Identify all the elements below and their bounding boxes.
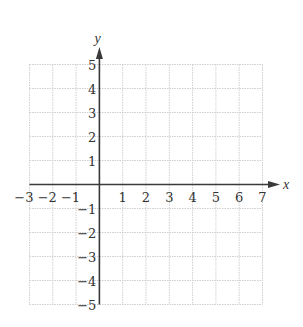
- y-tick-label: −5: [77, 298, 96, 313]
- x-tick-label: 6: [235, 190, 243, 205]
- y-tick-label: 3: [88, 106, 96, 121]
- y-tick-label: 2: [88, 130, 96, 145]
- x-tick-label: 2: [142, 190, 150, 205]
- y-axis-arrow-icon: [96, 47, 103, 59]
- y-tick-label: −3: [77, 250, 96, 265]
- x-axis-arrow-icon: [268, 181, 280, 188]
- x-tick-label: 1: [119, 190, 127, 205]
- y-tick-label: −1: [77, 202, 96, 217]
- y-axis-label: y: [92, 31, 101, 46]
- y-tick-label: −4: [77, 274, 96, 289]
- y-tick-label: −2: [77, 226, 96, 241]
- axes: [30, 47, 281, 305]
- x-tick-label: 5: [212, 190, 220, 205]
- y-tick-label: 4: [88, 82, 96, 97]
- x-axis-label: x: [282, 177, 290, 192]
- coordinate-plane: −3−2−11234567 54321−1−2−3−4−5 x y: [0, 0, 303, 327]
- x-tick-label: 7: [258, 190, 266, 205]
- x-tick-label: −2: [38, 190, 57, 205]
- y-tick-label: 5: [88, 58, 96, 73]
- x-tick-label: 3: [165, 190, 173, 205]
- x-tick-label: −3: [14, 190, 33, 205]
- y-tick-label: 1: [88, 154, 96, 169]
- x-tick-labels: −3−2−11234567: [14, 190, 266, 205]
- x-tick-label: 4: [188, 190, 196, 205]
